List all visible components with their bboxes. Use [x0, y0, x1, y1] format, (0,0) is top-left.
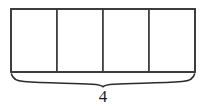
brace-left-half — [12, 74, 104, 87]
cell-group — [11, 9, 195, 72]
brace-label: 4 — [99, 87, 108, 106]
cell-4 — [149, 9, 195, 72]
cell-3 — [103, 9, 149, 72]
cell-2 — [57, 9, 103, 72]
cell-1 — [11, 9, 57, 72]
partitioned-rectangle-diagram: 4 — [0, 0, 206, 108]
figure-container: 4 — [0, 0, 206, 108]
brace-right-half — [103, 74, 195, 87]
